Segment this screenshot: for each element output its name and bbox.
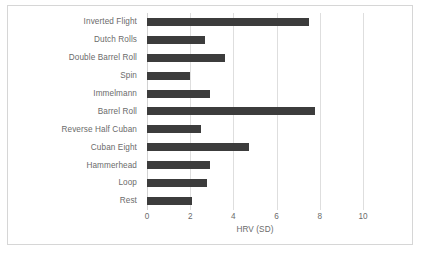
category-label: Hammerhead xyxy=(86,161,137,170)
bar-row xyxy=(147,102,363,120)
category-label-row: Immelmann xyxy=(8,85,142,103)
x-tick-label-2: 2 xyxy=(188,212,193,221)
bar[interactable] xyxy=(147,72,190,80)
category-label-row: Reverse Half Cuban xyxy=(8,120,142,138)
x-tick-label-4: 4 xyxy=(231,212,236,221)
category-label: Loop xyxy=(118,178,137,187)
bar[interactable] xyxy=(147,54,225,62)
bar[interactable] xyxy=(147,179,207,187)
category-label: Double Barrel Roll xyxy=(69,53,137,62)
category-label-row: Spin xyxy=(8,67,142,85)
category-label-row: Loop xyxy=(8,174,142,192)
category-label-row: Cuban Eight xyxy=(8,138,142,156)
bar-row xyxy=(147,138,363,156)
plot-area xyxy=(147,13,363,210)
bar-row xyxy=(147,49,363,67)
bar-row xyxy=(147,192,363,210)
bar[interactable] xyxy=(147,107,315,115)
bar-series xyxy=(147,13,363,210)
category-label-row: Double Barrel Roll xyxy=(8,49,142,67)
bar-row xyxy=(147,85,363,103)
category-label: Inverted Flight xyxy=(84,17,137,26)
bar[interactable] xyxy=(147,90,210,98)
bar-row xyxy=(147,31,363,49)
category-label: Cuban Eight xyxy=(91,143,137,152)
chart-figure: Inverted FlightDutch RollsDouble Barrel … xyxy=(7,5,413,245)
bar[interactable] xyxy=(147,18,309,26)
category-label: Immelmann xyxy=(93,89,137,98)
x-tick-label-6: 6 xyxy=(274,212,279,221)
category-label: Dutch Rolls xyxy=(94,35,137,44)
bar[interactable] xyxy=(147,197,192,205)
category-label-row: Barrel Roll xyxy=(8,102,142,120)
category-label-row: Dutch Rolls xyxy=(8,31,142,49)
bar-row xyxy=(147,156,363,174)
x-tick-label-10: 10 xyxy=(358,212,367,221)
x-tick-label-8: 8 xyxy=(318,212,323,221)
x-tick-label-0: 0 xyxy=(145,212,150,221)
bar-row xyxy=(147,67,363,85)
bar[interactable] xyxy=(147,161,210,169)
category-label-row: Inverted Flight xyxy=(8,13,142,31)
gridline-10 xyxy=(363,13,364,210)
bar-row xyxy=(147,174,363,192)
category-label: Spin xyxy=(120,71,137,80)
x-axis-ticks: 0246810 xyxy=(147,210,363,226)
bar-row xyxy=(147,120,363,138)
category-label: Barrel Roll xyxy=(98,107,137,116)
category-label: Rest xyxy=(120,196,137,205)
category-label-row: Hammerhead xyxy=(8,156,142,174)
bar[interactable] xyxy=(147,36,205,44)
bar[interactable] xyxy=(147,143,249,151)
bar[interactable] xyxy=(147,125,201,133)
bar-row xyxy=(147,13,363,31)
category-axis-labels: Inverted FlightDutch RollsDouble Barrel … xyxy=(8,13,142,210)
category-label-row: Rest xyxy=(8,192,142,210)
x-axis-title: HRV (SD) xyxy=(147,225,363,234)
category-label: Reverse Half Cuban xyxy=(61,125,137,134)
